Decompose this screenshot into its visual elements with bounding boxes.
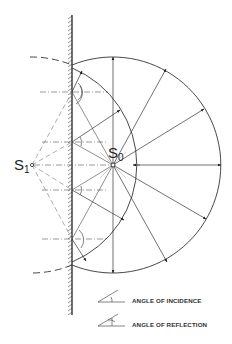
image-wavefront-bottom xyxy=(30,265,72,273)
incident-rays xyxy=(72,92,113,239)
legend-incidence-label: ANGLE OF INCIDENCE xyxy=(132,297,202,304)
angle-of-reflection-symbol xyxy=(98,314,125,326)
image-wavefront-top xyxy=(30,57,72,65)
s0-source-marker xyxy=(111,163,115,167)
reflection-diagram: S0 S1 ANGLE OF INCIDENCE ANGLE OF REFLEC… xyxy=(0,0,232,344)
direct-rays xyxy=(113,57,221,273)
angle-arcs xyxy=(76,83,84,248)
legend-reflection-label: ANGLE OF REFLECTION xyxy=(132,321,208,328)
image-rays xyxy=(32,92,72,239)
angle-of-incidence-symbol xyxy=(98,290,125,302)
legend: ANGLE OF INCIDENCE ANGLE OF REFLECTION xyxy=(98,290,208,328)
reflected-rays xyxy=(72,71,124,261)
normals xyxy=(40,92,108,239)
s1-label: S1 xyxy=(14,156,30,175)
s1-source-marker xyxy=(30,163,33,166)
s0-label: S0 xyxy=(108,144,124,163)
